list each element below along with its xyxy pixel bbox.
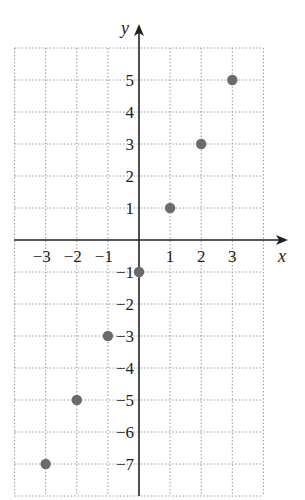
x-tick-label: −2 xyxy=(64,247,82,266)
y-tick-label: 3 xyxy=(126,135,135,154)
y-tick-label: −7 xyxy=(116,455,135,474)
y-tick-label: 5 xyxy=(126,71,135,90)
y-tick-label: 1 xyxy=(126,199,135,218)
x-tick-label: −1 xyxy=(95,247,113,266)
y-tick-label: −4 xyxy=(116,359,135,378)
axes: x y xyxy=(14,18,288,496)
data-point xyxy=(227,75,237,85)
y-tick-label: 4 xyxy=(126,103,135,122)
y-axis-label: y xyxy=(119,18,129,38)
data-point xyxy=(72,395,82,405)
y-tick-label: −3 xyxy=(116,327,134,346)
x-tick-label: 1 xyxy=(166,247,175,266)
x-axis-label: x xyxy=(277,246,286,266)
coordinate-plane: x y −3−2−112354321−1−2−3−4−5−6−7 xyxy=(0,0,305,500)
y-tick-label: −2 xyxy=(116,295,134,314)
x-tick-label: −3 xyxy=(33,247,51,266)
data-point xyxy=(165,203,175,213)
y-tick-label: −6 xyxy=(116,423,134,442)
y-tick-label: 2 xyxy=(126,167,135,186)
x-tick-label: 3 xyxy=(228,247,237,266)
y-tick-label: −5 xyxy=(116,391,134,410)
y-tick-label: −1 xyxy=(116,263,134,282)
data-point xyxy=(103,331,113,341)
x-tick-label: 2 xyxy=(197,247,206,266)
data-point xyxy=(196,139,206,149)
data-point xyxy=(41,459,51,469)
data-point xyxy=(134,267,144,277)
